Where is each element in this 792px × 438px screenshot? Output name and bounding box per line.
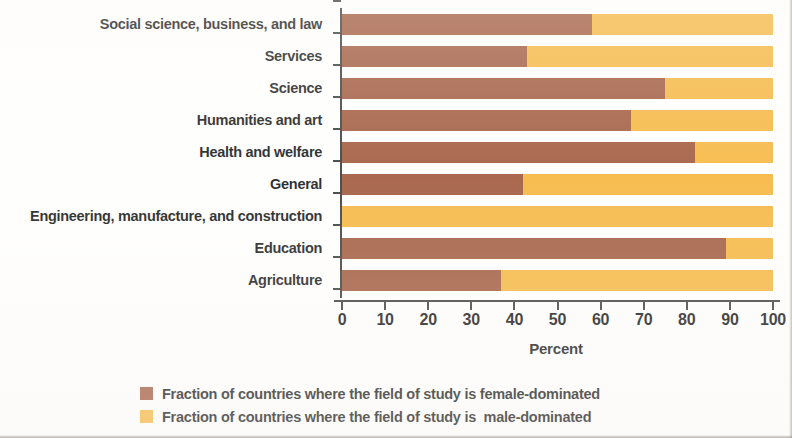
bar-row xyxy=(342,174,773,195)
x-axis-tick xyxy=(643,302,645,310)
y-axis-tick xyxy=(333,160,341,162)
y-axis-tick xyxy=(333,32,341,34)
bar-segment-male xyxy=(665,78,773,99)
stacked-bar-chart-figure: Social science, business, and law Servic… xyxy=(0,0,792,438)
legend-swatch-male-icon xyxy=(140,410,153,423)
y-axis-label-health-and-welfare: Health and welfare xyxy=(199,136,322,168)
bar-segment-female xyxy=(342,270,501,291)
x-axis-tick-label: 10 xyxy=(376,311,393,329)
x-axis-tick xyxy=(772,302,774,310)
x-axis-tick xyxy=(557,302,559,310)
x-axis-tick xyxy=(341,302,343,310)
y-axis-tick xyxy=(333,224,341,226)
x-axis-tick-label: 60 xyxy=(592,311,609,329)
x-axis-tick-label: 30 xyxy=(463,311,480,329)
bar-segment-female xyxy=(342,78,665,99)
bar-series-container xyxy=(342,8,773,298)
bar-row xyxy=(342,110,773,131)
x-axis-tick-label: 90 xyxy=(721,311,738,329)
chart-legend: Fraction of countries where the field of… xyxy=(140,382,780,428)
x-axis-title: Percent xyxy=(340,340,772,357)
legend-label-female-dominated: Fraction of countries where the field of… xyxy=(162,386,600,402)
bar-segment-male xyxy=(631,110,773,131)
x-axis-tick xyxy=(729,302,731,310)
bar-segment-male xyxy=(726,238,773,259)
bar-segment-male xyxy=(695,142,773,163)
y-axis-tick xyxy=(333,0,341,2)
legend-swatch-female-icon xyxy=(140,387,153,400)
x-axis-tick-label: 0 xyxy=(338,311,347,329)
x-axis-tick-label: 80 xyxy=(678,311,695,329)
bar-segment-female xyxy=(342,238,726,259)
bar-segment-female xyxy=(342,46,527,67)
x-axis-tick-label: 100 xyxy=(760,311,786,329)
bar-segment-female xyxy=(342,174,523,195)
bar-row xyxy=(342,14,773,35)
y-axis-tick xyxy=(333,64,341,66)
bar-segment-male xyxy=(527,46,773,67)
y-axis-label-social-science: Social science, business, and law xyxy=(100,8,322,40)
y-axis-label-science: Science xyxy=(269,72,322,104)
y-axis-tick xyxy=(333,128,341,130)
y-axis-label-services: Services xyxy=(265,40,322,72)
y-axis-tick xyxy=(333,192,341,194)
bar-row xyxy=(342,238,773,259)
y-axis-tick xyxy=(333,288,341,290)
x-axis-tick xyxy=(513,302,515,310)
x-axis-tick xyxy=(384,302,386,310)
bar-row xyxy=(342,46,773,67)
bar-row xyxy=(342,78,773,99)
y-axis-label-general: General xyxy=(270,168,322,200)
bar-segment-female xyxy=(342,110,631,131)
y-axis-label-engineering: Engineering, manufacture, and constructi… xyxy=(30,200,322,232)
bar-segment-male xyxy=(592,14,773,35)
bar-row xyxy=(342,142,773,163)
y-axis-label-education: Education xyxy=(255,232,322,264)
bar-row xyxy=(342,270,773,291)
x-axis-tick xyxy=(470,302,472,310)
legend-item-female-dominated: Fraction of countries where the field of… xyxy=(140,382,780,405)
x-axis-tick xyxy=(427,302,429,310)
y-axis-tick xyxy=(333,96,341,98)
x-axis-tick-label: 50 xyxy=(549,311,566,329)
x-axis-tick xyxy=(686,302,688,310)
x-axis-tick-label: 40 xyxy=(506,311,523,329)
bar-segment-male xyxy=(342,206,773,227)
bar-segment-female xyxy=(342,142,695,163)
legend-label-male-dominated: Fraction of countries where the field of… xyxy=(162,409,591,425)
y-axis-tick xyxy=(333,256,341,258)
bar-segment-male xyxy=(501,270,773,291)
y-axis-label-humanities-and-art: Humanities and art xyxy=(197,104,322,136)
x-axis-tick-label: 20 xyxy=(419,311,436,329)
y-axis-category-labels: Social science, business, and law Servic… xyxy=(0,8,330,293)
x-axis-tick-label: 70 xyxy=(635,311,652,329)
bar-row xyxy=(342,206,773,227)
x-axis-tick xyxy=(600,302,602,310)
bar-segment-male xyxy=(523,174,773,195)
legend-item-male-dominated: Fraction of countries where the field of… xyxy=(140,405,780,428)
y-axis-label-agriculture: Agriculture xyxy=(248,264,322,296)
plot-area: Social science, business, and law Servic… xyxy=(0,0,792,300)
bar-segment-female xyxy=(342,14,592,35)
